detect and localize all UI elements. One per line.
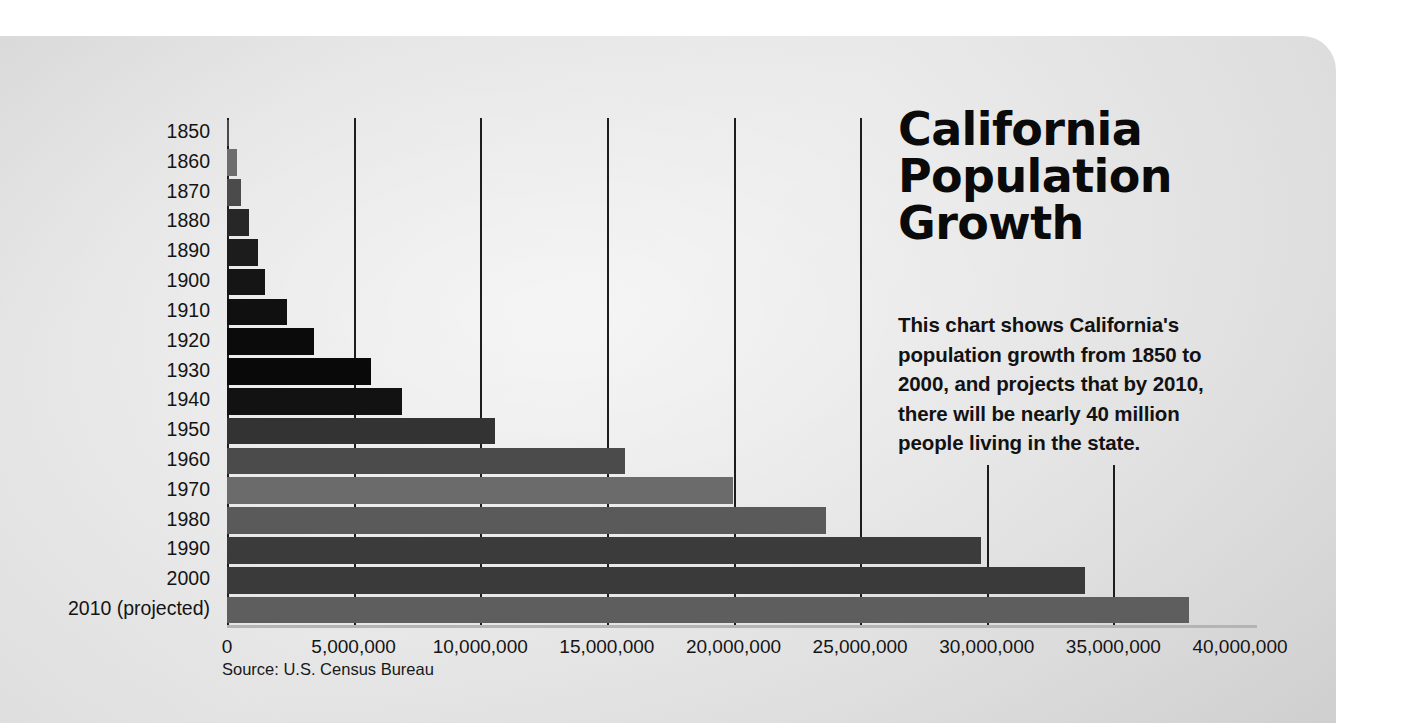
bar [227,328,314,355]
value-axis-labels: 05,000,00010,000,00015,000,00020,000,000… [0,636,1403,662]
chart-description-line: there will be nearly 40 million [898,399,1298,429]
x-tick-label: 15,000,000 [559,636,654,658]
bar [227,269,265,296]
chart-description-line: This chart shows California's [898,310,1298,340]
bar [227,209,249,236]
category-label: 1930 [167,359,210,382]
bar [227,388,402,415]
x-tick-label: 25,000,000 [813,636,908,658]
chart-description-line: people living in the state. [898,428,1298,458]
chart-title-line: Growth [898,200,1328,247]
bar [227,537,981,564]
x-tick-label: 5,000,000 [311,636,396,658]
x-tick-label: 0 [222,636,233,658]
category-label: 1920 [167,329,210,352]
chart-description-line: 2000, and projects that by 2010, [898,369,1298,399]
x-tick-label: 40,000,000 [1192,636,1287,658]
category-label: 2000 [167,567,210,590]
bar [227,179,241,206]
category-label: 1860 [167,150,210,173]
category-label: 1890 [167,239,210,262]
x-tick-label: 20,000,000 [686,636,781,658]
bar [227,358,371,385]
chart-description: This chart shows California'spopulation … [898,310,1298,458]
bar [227,299,287,326]
category-label: 1900 [167,269,210,292]
chart-description-line: population growth from 1850 to [898,340,1298,370]
category-label: 2010 (projected) [68,597,210,620]
bar [227,597,1189,624]
category-label: 1910 [167,299,210,322]
bar [227,418,495,445]
x-tick-label: 30,000,000 [939,636,1034,658]
bar [227,477,733,504]
category-label: 1970 [167,478,210,501]
chart-canvas: 1850186018701880189019001910192019301940… [0,0,1403,723]
bar [227,448,625,475]
bar [227,120,229,147]
bar [227,567,1085,594]
category-label: 1850 [167,120,210,143]
category-label: 1870 [167,180,210,203]
chart-title-line: Population [898,153,1328,200]
category-label: 1980 [167,508,210,531]
category-label: 1880 [167,209,210,232]
bar [227,149,237,176]
source-caption: Source: U.S. Census Bureau [222,660,434,679]
x-axis-line [227,625,1257,628]
category-label: 1950 [167,418,210,441]
category-label: 1960 [167,448,210,471]
category-label: 1940 [167,388,210,411]
bar [227,507,826,534]
bar [227,239,258,266]
chart-title-line: California [898,106,1328,153]
chart-title: CaliforniaPopulationGrowth [898,106,1328,247]
x-tick-label: 35,000,000 [1066,636,1161,658]
x-tick-label: 10,000,000 [433,636,528,658]
category-axis-labels: 1850186018701880189019001910192019301940… [0,118,220,625]
category-label: 1990 [167,537,210,560]
